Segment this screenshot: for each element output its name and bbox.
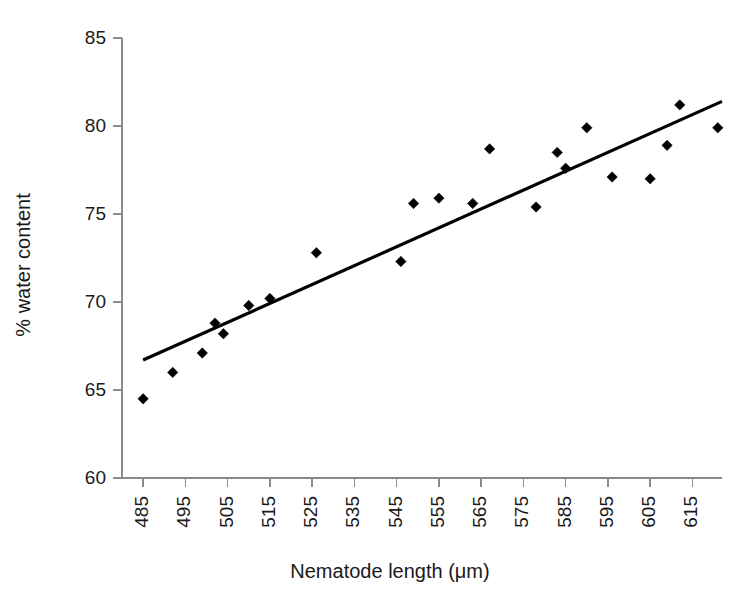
data-point bbox=[168, 367, 178, 377]
x-tick-label: 555 bbox=[427, 496, 448, 528]
data-point bbox=[311, 248, 321, 258]
x-tick-label: 545 bbox=[385, 496, 406, 528]
y-tick-label: 80 bbox=[85, 115, 106, 136]
data-point bbox=[218, 328, 228, 338]
x-tick-label: 485 bbox=[131, 496, 152, 528]
x-tick-label: 535 bbox=[342, 496, 363, 528]
data-point bbox=[408, 198, 418, 208]
x-tick-label: 615 bbox=[680, 496, 701, 528]
data-point bbox=[607, 172, 617, 182]
x-tick-label: 515 bbox=[258, 496, 279, 528]
scatter-plot-figure: 606570758085 485495505515525535545555565… bbox=[0, 0, 753, 604]
y-axis-tick-group: 606570758085 bbox=[85, 27, 122, 488]
trendline bbox=[143, 101, 722, 360]
y-tick-label: 85 bbox=[85, 27, 106, 48]
data-point bbox=[138, 394, 148, 404]
data-point bbox=[468, 198, 478, 208]
x-tick-label: 585 bbox=[554, 496, 575, 528]
y-axis-title: % water content bbox=[12, 193, 34, 337]
y-tick-label: 75 bbox=[85, 203, 106, 224]
x-tick-label: 595 bbox=[596, 496, 617, 528]
data-point-group bbox=[138, 100, 723, 404]
data-point bbox=[484, 144, 494, 154]
plot-canvas: 606570758085 485495505515525535545555565… bbox=[0, 0, 753, 604]
data-point bbox=[675, 100, 685, 110]
data-point bbox=[662, 140, 672, 150]
y-tick-label: 60 bbox=[85, 467, 106, 488]
data-point bbox=[552, 147, 562, 157]
x-tick-label: 495 bbox=[173, 496, 194, 528]
x-axis-title: Nematode length (μm) bbox=[290, 560, 489, 582]
y-tick-label: 65 bbox=[85, 379, 106, 400]
x-tick-label: 605 bbox=[638, 496, 659, 528]
x-axis-tick-group: 4854955055155255355455555655755855956056… bbox=[131, 478, 701, 528]
data-point bbox=[713, 123, 723, 133]
data-point bbox=[582, 123, 592, 133]
data-point bbox=[645, 174, 655, 184]
data-point bbox=[434, 193, 444, 203]
x-tick-label: 575 bbox=[511, 496, 532, 528]
data-point bbox=[244, 300, 254, 310]
x-tick-label: 505 bbox=[216, 496, 237, 528]
data-point bbox=[531, 202, 541, 212]
data-point bbox=[197, 348, 207, 358]
x-tick-label: 525 bbox=[300, 496, 321, 528]
y-tick-label: 70 bbox=[85, 291, 106, 312]
data-point bbox=[396, 256, 406, 266]
x-tick-label: 565 bbox=[469, 496, 490, 528]
